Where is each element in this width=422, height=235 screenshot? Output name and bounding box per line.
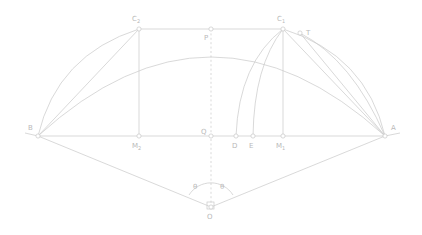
point-label-c2: C2 bbox=[132, 15, 140, 24]
point-marker-p bbox=[209, 27, 213, 31]
segment-group bbox=[25, 29, 400, 207]
angle-label-theta-right: θ bbox=[220, 183, 224, 191]
point-marker-b bbox=[36, 134, 40, 138]
point-marker-c1 bbox=[281, 27, 285, 31]
point-marker-a bbox=[383, 134, 387, 138]
point-marker-t bbox=[298, 31, 302, 35]
point-label-a: A bbox=[391, 124, 396, 132]
chord-A-C1 bbox=[283, 29, 385, 136]
point-label-c1: C1 bbox=[277, 15, 285, 24]
angle-label-theta-left: θ bbox=[193, 183, 197, 191]
point-label-e: E bbox=[249, 142, 253, 150]
arc-group bbox=[38, 29, 385, 136]
point-label-d: D bbox=[232, 142, 237, 150]
geometry-figure: BAC2C1PTQM2M1DEOθθ bbox=[0, 0, 422, 235]
point-marker-q bbox=[209, 134, 213, 138]
point-label-m2: M2 bbox=[132, 142, 141, 151]
point-label-q: Q bbox=[201, 128, 207, 136]
point-marker-c2 bbox=[137, 27, 141, 31]
point-marker-o bbox=[209, 205, 213, 209]
diagram-canvas: BAC2C1PTQM2M1DEOθθ bbox=[0, 0, 422, 235]
point-marker-m2 bbox=[137, 134, 141, 138]
radius-O-B bbox=[38, 136, 211, 207]
arc-D-C1 bbox=[236, 29, 283, 136]
point-label-t: T bbox=[305, 29, 311, 37]
point-label-o: O bbox=[207, 213, 213, 221]
point-marker-d bbox=[234, 134, 238, 138]
point-label-m1: M1 bbox=[276, 142, 285, 151]
point-label-group: BAC2C1PTQM2M1DEOθθ bbox=[28, 15, 396, 221]
point-marker-m1 bbox=[281, 134, 285, 138]
point-label-b: B bbox=[28, 124, 33, 132]
arc-E-C1 bbox=[253, 29, 283, 136]
chord-A-T bbox=[300, 33, 385, 136]
chord-B-C2 bbox=[38, 29, 139, 136]
point-marker-e bbox=[251, 134, 255, 138]
point-label-p: P bbox=[204, 34, 208, 42]
arc-major-B-A bbox=[38, 57, 385, 136]
